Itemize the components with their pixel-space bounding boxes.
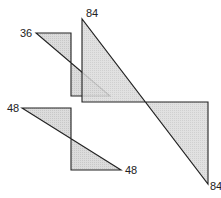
label-36: 36 — [20, 27, 32, 39]
diagram-canvas: 36 84 84 48 48 — [0, 0, 221, 198]
label-84-bottom: 84 — [210, 180, 221, 192]
label-48-left: 48 — [7, 102, 19, 114]
label-48-right: 48 — [125, 164, 137, 176]
label-84-top: 84 — [86, 7, 98, 19]
diagram-svg: 36 84 84 48 48 — [0, 0, 221, 198]
shape-48-polygon — [22, 108, 121, 170]
